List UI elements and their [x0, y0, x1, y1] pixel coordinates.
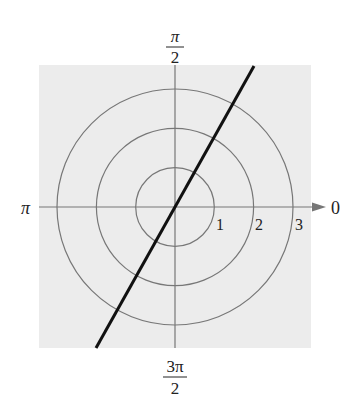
angle-label-0: 0	[331, 198, 340, 218]
angle-label-pi-over-2-den: 2	[171, 48, 180, 67]
axis-arrow-icon	[312, 203, 326, 212]
angle-label-pi: π	[21, 198, 31, 218]
polar-plot: 1 2 3 0 π π 2 3π 2	[0, 0, 359, 406]
radial-label-3: 3	[295, 216, 303, 233]
angle-label-3pi-over-2-den: 2	[171, 379, 180, 398]
radial-label-1: 1	[216, 216, 224, 233]
radial-label-2: 2	[255, 216, 263, 233]
angle-label-3pi-over-2-num: 3π	[166, 357, 184, 376]
angle-label-pi-over-2-num: π	[171, 27, 180, 46]
